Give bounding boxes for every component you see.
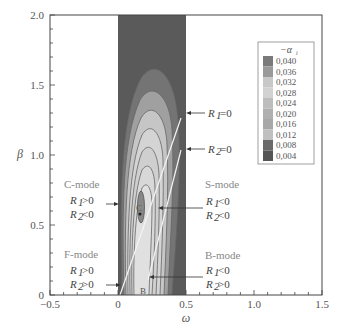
x-tick-0: 0 — [115, 298, 121, 310]
y-tick-20: 2.0 — [30, 9, 44, 21]
y-tick-05: 0.5 — [30, 219, 44, 231]
svg-text:R: R — [69, 264, 77, 276]
annotation-f-mode: F-mode R 1 >0 R 2 >0 — [64, 248, 121, 292]
svg-text:R: R — [205, 264, 213, 276]
svg-text:C-mode: C-mode — [64, 178, 100, 190]
svg-text:<0: <0 — [218, 209, 230, 221]
svg-text:0,012: 0,012 — [276, 130, 296, 140]
svg-text:=0: =0 — [220, 107, 232, 119]
contour-chart: C B 0 0.5 1.0 1.5 2.0 −0.5 0 0.5 1.0 1.5… — [0, 0, 340, 328]
svg-text:>0: >0 — [82, 278, 94, 290]
svg-text:R: R — [69, 208, 77, 220]
svg-text:>0: >0 — [82, 194, 94, 206]
svg-text:0,028: 0,028 — [276, 88, 297, 98]
legend: −α i 0,040 0,036 0,032 0,028 0,024 0,020… — [258, 42, 314, 164]
x-axis — [50, 290, 322, 295]
x-tick-m05: −0.5 — [40, 298, 60, 310]
boundary-annotations: R 1 =0 R 2 =0 — [186, 107, 232, 157]
svg-text:0,020: 0,020 — [276, 109, 297, 119]
svg-text:0,036: 0,036 — [276, 67, 297, 77]
y-axis — [50, 15, 55, 295]
svg-text:S-mode: S-mode — [205, 178, 239, 190]
svg-text:0,024: 0,024 — [276, 98, 297, 108]
y-tick-10: 1.0 — [30, 149, 44, 161]
svg-text:R: R — [207, 107, 215, 119]
svg-text:R: R — [69, 194, 77, 206]
y-axis-label: β — [16, 147, 23, 161]
svg-text:R: R — [205, 278, 213, 290]
svg-text:>0: >0 — [82, 264, 94, 276]
svg-text:0,004: 0,004 — [276, 151, 297, 161]
x-tick-10: 1.0 — [247, 298, 261, 310]
svg-text:=0: =0 — [220, 143, 232, 155]
svg-text:<0: <0 — [218, 195, 230, 207]
x-axis-label: ω — [182, 311, 190, 325]
svg-text:R: R — [69, 278, 77, 290]
svg-text:0,008: 0,008 — [276, 140, 297, 150]
svg-text:0,040: 0,040 — [276, 56, 297, 66]
svg-text:−α: −α — [280, 44, 293, 55]
svg-text:<0: <0 — [218, 264, 230, 276]
svg-text:F-mode: F-mode — [64, 248, 98, 260]
svg-text:0,032: 0,032 — [276, 77, 296, 87]
svg-text:>0: >0 — [218, 278, 230, 290]
x-tick-15: 1.5 — [315, 298, 329, 310]
annotation-c-mode: C-mode R 1 >0 R 2 <0 — [64, 178, 119, 222]
marker-c: C — [136, 203, 142, 213]
y-tick-15: 1.5 — [30, 79, 44, 91]
svg-text:R: R — [205, 195, 213, 207]
svg-text:R: R — [207, 143, 215, 155]
svg-text:0,016: 0,016 — [276, 119, 297, 129]
svg-text:R: R — [205, 209, 213, 221]
svg-text:<0: <0 — [82, 208, 94, 220]
x-tick-05: 0.5 — [179, 298, 193, 310]
svg-text:B-mode: B-mode — [205, 249, 241, 261]
